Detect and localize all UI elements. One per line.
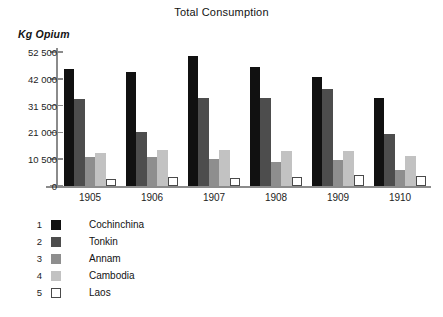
bar	[312, 77, 323, 186]
legend-swatch-icon	[51, 288, 61, 298]
bar	[136, 132, 147, 186]
legend-item-annam[interactable]: 3Annam	[28, 250, 258, 267]
legend-item-tonkin[interactable]: 2Tonkin	[28, 233, 258, 250]
bar-group	[126, 52, 179, 186]
x-tick-label: 1905	[79, 192, 101, 203]
bar	[168, 177, 179, 186]
legend-number: 2	[28, 236, 42, 247]
legend-label: Annam	[89, 253, 121, 264]
legend-number: 1	[28, 219, 42, 230]
y-tick-label: 42 000	[28, 73, 57, 84]
bar	[74, 99, 85, 186]
x-tick-label: 1906	[141, 192, 163, 203]
x-tick-label: 1909	[327, 192, 349, 203]
bar	[209, 159, 220, 186]
legend-item-cambodia[interactable]: 4Cambodia	[28, 267, 258, 284]
bar-group	[374, 52, 427, 186]
legend-label: Cochinchina	[89, 219, 144, 230]
bar	[230, 178, 241, 186]
legend-label: Laos	[89, 287, 111, 298]
legend-item-cochinchina[interactable]: 1Cochinchina	[28, 216, 258, 233]
x-tick-label: 1908	[265, 192, 287, 203]
y-tick-label: 31 500	[28, 100, 57, 111]
bar	[188, 56, 199, 186]
bar	[281, 151, 292, 186]
bar	[219, 150, 230, 186]
legend-swatch-icon	[51, 237, 61, 247]
bar	[95, 153, 106, 186]
chart-legend: 1Cochinchina2Tonkin3Annam4Cambodia5Laos	[28, 216, 258, 301]
chart-figure: Total Consumption Kg Opium 010 50021 000…	[0, 0, 443, 317]
legend-number: 5	[28, 287, 42, 298]
bar	[64, 69, 75, 186]
legend-swatch-icon	[51, 271, 61, 281]
legend-item-laos[interactable]: 5Laos	[28, 284, 258, 301]
x-tick-label: 1907	[203, 192, 225, 203]
x-tick-label: 1910	[389, 192, 411, 203]
bar	[271, 162, 282, 186]
y-tick-label: 21 000	[28, 127, 57, 138]
bar	[395, 170, 406, 186]
bar	[333, 160, 344, 186]
chart-title: Total Consumption	[0, 6, 443, 18]
bar	[384, 134, 395, 186]
bar	[405, 156, 416, 186]
bar	[260, 98, 271, 186]
y-tick-label: 52 500	[28, 47, 57, 58]
x-axis-line	[46, 186, 431, 188]
y-axis-label: Kg Opium	[18, 28, 70, 40]
legend-label: Tonkin	[89, 236, 118, 247]
bar	[198, 98, 209, 186]
bar	[343, 151, 354, 186]
bar-group	[64, 52, 117, 186]
bar-group	[188, 52, 241, 186]
plot-area	[57, 52, 429, 186]
bar	[250, 67, 261, 186]
bar	[292, 177, 303, 186]
y-tick-label: 10 500	[28, 154, 57, 165]
bar	[374, 98, 385, 186]
bar	[126, 72, 137, 186]
legend-number: 4	[28, 270, 42, 281]
bar	[106, 179, 117, 186]
bar	[416, 176, 427, 186]
bar-group	[312, 52, 365, 186]
legend-number: 3	[28, 253, 42, 264]
legend-swatch-icon	[51, 254, 61, 264]
bar	[354, 175, 365, 186]
legend-label: Cambodia	[89, 270, 135, 281]
bar	[157, 150, 168, 186]
legend-swatch-icon	[51, 220, 61, 230]
bar	[147, 157, 158, 186]
bar-group	[250, 52, 303, 186]
bar	[322, 89, 333, 186]
bar	[85, 157, 96, 186]
